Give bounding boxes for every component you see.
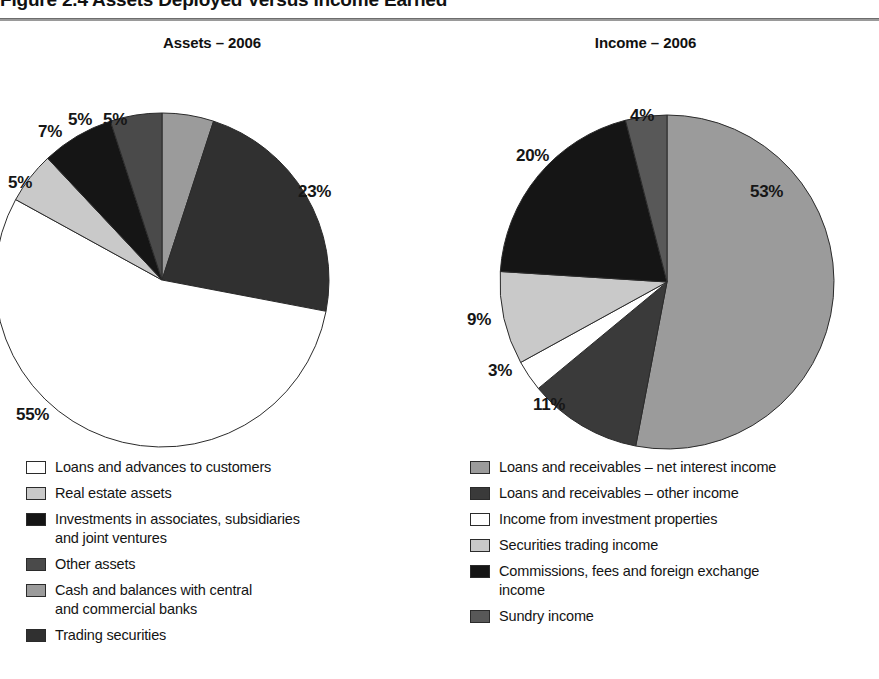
legend-item-label-continued: and joint ventures [55,529,300,548]
pct-assets-investments: 7% [38,122,62,142]
figure-title: Figure 2.4 Assets Deployed Versus Income… [0,0,879,15]
legend-swatch-icon [26,629,46,642]
legend-item-label: Loans and advances to customers [55,458,271,477]
legend-swatch-icon [470,513,490,526]
legend-swatch-icon [26,513,46,526]
pct-assets-loans: 55% [16,405,49,425]
legend-item-label-continued: income [499,581,759,600]
legend-item: Commissions, fees and foreign exchangein… [470,562,870,600]
figure-root: Figure 2.4 Assets Deployed Versus Income… [0,0,879,679]
legend-assets: Loans and advances to customersReal esta… [26,458,426,652]
legend-swatch-icon [26,558,46,571]
pie-income: Loans and receivables – net interest inc… [440,22,879,452]
legend-swatch-icon [470,610,490,623]
pct-assets-realestate: 5% [8,173,32,193]
legend-swatch-icon [26,461,46,474]
pct-assets-trading: 23% [298,182,331,202]
legend-item: Trading securities [26,626,426,645]
legend-item-label: Trading securities [55,626,166,645]
legend-item-label: Loans and receivables – net interest inc… [499,458,776,477]
legend-item-label: Sundry income [499,607,594,626]
legend-item: Income from investment properties [470,510,870,529]
legend-item-label: Investments in associates, subsidiariesa… [55,510,300,548]
legend-swatch-icon [470,487,490,500]
legend-swatch-icon [26,584,46,597]
pct-income-commissions: 20% [516,146,549,166]
panel-assets: Assets – 2006 Cash and balances with cen… [0,22,440,452]
legend-item-label: Cash and balances with centraland commer… [55,581,252,619]
pct-assets-other: 5% [68,110,92,130]
pct-income-securities: 9% [467,310,491,330]
pct-income-investprop: 3% [488,361,512,381]
legend-item-label: Real estate assets [55,484,172,503]
pct-assets-cash: 5% [103,110,127,130]
pie-income-svg: Loans and receivables – net interest inc… [440,22,879,452]
legend-item-label: Other assets [55,555,135,574]
legend-item-label: Income from investment properties [499,510,717,529]
legend-item: Cash and balances with centraland commer… [26,581,426,619]
legend-swatch-icon [470,565,490,578]
legend-item: Loans and receivables – net interest inc… [470,458,870,477]
legend-swatch-icon [470,539,490,552]
pie-assets-svg: Cash and balances with central and comme… [0,22,440,452]
legend-item: Investments in associates, subsidiariesa… [26,510,426,548]
legend-item: Securities trading income [470,536,870,555]
legend-swatch-icon [470,461,490,474]
legend-item-label: Commissions, fees and foreign exchangein… [499,562,759,600]
pct-income-netinterest: 53% [750,182,783,202]
legend-item: Loans and receivables – other income [470,484,870,503]
legend-item-label: Loans and receivables – other income [499,484,739,503]
legend-swatch-icon [26,487,46,500]
title-divider [0,18,879,21]
legend-item-label: Securities trading income [499,536,658,555]
legend-item: Other assets [26,555,426,574]
legend-income: Loans and receivables – net interest inc… [470,458,870,633]
legend-item: Loans and advances to customers [26,458,426,477]
legend-item: Real estate assets [26,484,426,503]
legend-item-label-continued: and commercial banks [55,600,252,619]
legend-item: Sundry income [470,607,870,626]
panel-income: Income – 2006 Loans and receivables – ne… [440,22,879,452]
pct-income-sundry: 4% [630,106,654,126]
pie-assets: Cash and balances with central and comme… [0,22,440,452]
pct-income-otherincome: 11% [533,395,565,415]
